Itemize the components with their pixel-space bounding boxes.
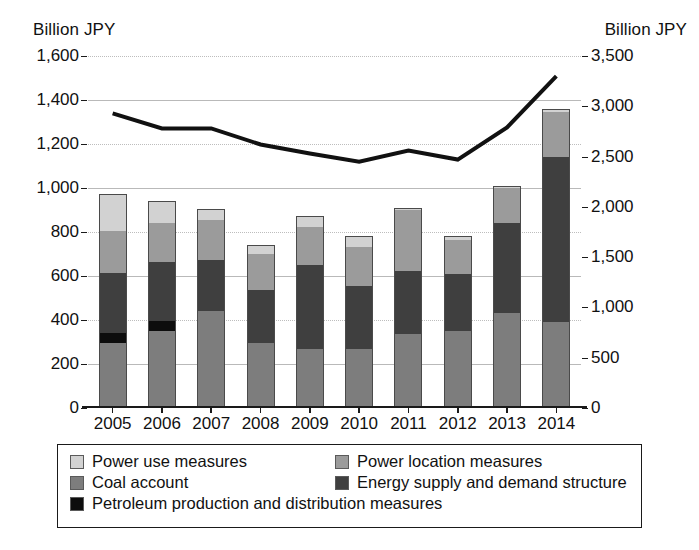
right-tick-mark [582, 358, 588, 359]
legend-swatch-coal-account-icon [70, 476, 84, 490]
x-tick-mark [408, 408, 410, 413]
left-tick-label: 1,000 [36, 179, 79, 196]
legend-swatch-petroleum-icon [70, 497, 84, 511]
x-label-2014: 2014 [529, 414, 583, 434]
x-tick-mark [112, 408, 114, 413]
x-tick-mark [260, 408, 262, 413]
legend-row-1: Power use measures Power location measur… [70, 452, 641, 471]
x-label-2009: 2009 [283, 414, 337, 434]
left-tick-label: 1,400 [36, 91, 79, 108]
right-tick-mark [582, 207, 588, 208]
legend-label-petroleum: Petroleum production and distribution me… [92, 494, 442, 513]
left-tick-mark [81, 232, 87, 233]
x-label-2008: 2008 [234, 414, 288, 434]
legend-item-petroleum[interactable]: Petroleum production and distribution me… [70, 494, 442, 513]
x-tick-mark [506, 408, 508, 413]
legend-label-energy-supply: Energy supply and demand structure [357, 473, 627, 492]
x-axis-line [82, 406, 587, 408]
total-trend-line [113, 76, 557, 161]
legend-item-power-use[interactable]: Power use measures [70, 452, 335, 471]
right-tick-mark [582, 106, 588, 107]
chart-legend: Power use measures Power location measur… [57, 444, 642, 528]
x-label-2006: 2006 [135, 414, 189, 434]
right-tick-label: 3,000 [591, 97, 634, 114]
right-tick-mark [582, 56, 588, 57]
left-tick-label: 400 [51, 311, 79, 328]
left-tick-mark [81, 320, 87, 321]
legend-item-energy-supply[interactable]: Energy supply and demand structure [335, 473, 627, 492]
right-tick-mark [582, 408, 588, 409]
right-tick-mark [582, 307, 588, 308]
x-label-2013: 2013 [480, 414, 534, 434]
right-tick-mark [582, 157, 588, 158]
left-tick-mark [81, 144, 87, 145]
legend-swatch-power-location-icon [335, 455, 349, 469]
x-tick-mark [309, 408, 311, 413]
left-tick-mark [81, 408, 87, 409]
right-tick-label: 1,000 [591, 298, 634, 315]
x-label-2012: 2012 [431, 414, 485, 434]
x-label-2010: 2010 [332, 414, 386, 434]
left-tick-mark [81, 188, 87, 189]
x-tick-mark [457, 408, 459, 413]
x-label-2005: 2005 [86, 414, 140, 434]
legend-row-3: Petroleum production and distribution me… [70, 494, 641, 513]
left-tick-label: 800 [51, 223, 79, 240]
x-label-2011: 2011 [381, 414, 435, 434]
left-tick-label: 1,600 [36, 47, 79, 64]
left-tick-mark [81, 100, 87, 101]
left-tick-mark [81, 364, 87, 365]
left-axis-unit-label: Billion JPY [33, 20, 115, 40]
x-label-2007: 2007 [184, 414, 238, 434]
left-tick-label: 200 [51, 355, 79, 372]
line-series-layer [88, 56, 581, 408]
left-tick-label: 600 [51, 267, 79, 284]
plot-area: 1,6001,4001,2001,0008006004002000 3,5003… [88, 56, 581, 408]
left-tick-label: 1,200 [36, 135, 79, 152]
legend-label-power-use: Power use measures [92, 452, 247, 471]
right-tick-label: 2,500 [591, 148, 634, 165]
legend-swatch-power-use-icon [70, 455, 84, 469]
right-tick-mark [582, 257, 588, 258]
x-tick-mark [358, 408, 360, 413]
legend-row-2: Coal account Energy supply and demand st… [70, 473, 641, 492]
chart-figure: Billion JPY Billion JPY 1,6001,4001,2001… [0, 0, 699, 550]
x-tick-mark [556, 408, 558, 413]
legend-item-coal-account[interactable]: Coal account [70, 473, 335, 492]
legend-label-power-location: Power location measures [357, 452, 542, 471]
left-tick-mark [81, 56, 87, 57]
x-tick-mark [161, 408, 163, 413]
x-tick-mark [210, 408, 212, 413]
legend-swatch-energy-supply-icon [335, 476, 349, 490]
legend-item-power-location[interactable]: Power location measures [335, 452, 542, 471]
right-tick-label: 500 [591, 349, 619, 366]
right-axis-unit-label: Billion JPY [605, 20, 687, 40]
right-tick-label: 2,000 [591, 198, 634, 215]
legend-label-coal-account: Coal account [92, 473, 188, 492]
right-tick-label: 3,500 [591, 47, 634, 64]
left-tick-label: 0 [70, 399, 79, 416]
right-tick-label: 0 [591, 399, 600, 416]
left-tick-mark [81, 276, 87, 277]
right-tick-label: 1,500 [591, 248, 634, 265]
